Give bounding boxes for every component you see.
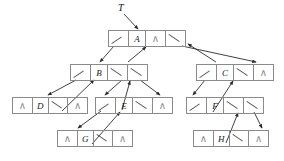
edge-A-to-B (100, 46, 114, 62)
node-b-cell-3-pointer (128, 65, 147, 80)
node-b-cell-2-pointer (108, 65, 128, 80)
node-e-cell-2-pointer (133, 98, 153, 113)
tree-node-c: C∧ (196, 64, 274, 81)
node-e-cell-0-pointer (96, 98, 116, 113)
node-h-cell-1-data: H (214, 131, 230, 146)
edge-B-to-D (48, 80, 76, 95)
tree-diagram-canvas: T A∧BC∧∧D∧E∧F∧G∧∧H∧ (0, 0, 284, 161)
node-a-cell-2-null-pointer: ∧ (146, 31, 166, 46)
node-c-cell-1-data: C (217, 65, 234, 80)
node-d-cell-0-null-pointer: ∧ (13, 98, 33, 113)
edge-B-to-A (128, 47, 146, 62)
node-b-cell-0-pointer (71, 65, 91, 80)
node-g-cell-0-null-pointer: ∧ (58, 131, 78, 146)
node-h-cell-2-pointer (230, 131, 250, 146)
node-g-cell-1-data: G (78, 131, 94, 146)
edge-A-to-C (182, 46, 256, 62)
node-d-cell-2-pointer (49, 98, 69, 113)
node-h-cell-3-null-pointer: ∧ (249, 131, 268, 146)
node-g-cell-3-null-pointer: ∧ (113, 131, 132, 146)
node-a-cell-3-pointer (166, 31, 185, 46)
tree-node-d: ∧D∧ (12, 97, 88, 114)
edge-C-to-F (193, 80, 205, 95)
tree-node-h: ∧H∧ (193, 130, 269, 147)
root-pointer-label: T (118, 2, 124, 13)
node-d-cell-3-null-pointer: ∧ (68, 98, 87, 113)
node-g-cell-2-pointer (94, 131, 114, 146)
node-f-cell-1-data: F (207, 98, 224, 113)
tree-node-b: B (70, 64, 148, 81)
node-h-cell-0-null-pointer: ∧ (194, 131, 214, 146)
node-b-cell-1-data: B (91, 65, 108, 80)
edge-B-to-rt (140, 80, 160, 95)
node-c-cell-0-pointer (197, 65, 217, 80)
node-f-cell-0-pointer (187, 98, 207, 113)
tree-node-a: A∧ (108, 30, 186, 47)
edge-T-to-A (124, 14, 138, 29)
node-e-cell-1-data: E (116, 98, 133, 113)
tree-node-f: F (186, 97, 264, 114)
node-e-cell-3-null-pointer: ∧ (153, 98, 172, 113)
node-f-cell-2-pointer (224, 98, 244, 113)
node-d-cell-1-data: D (33, 98, 49, 113)
tree-node-e: E∧ (95, 97, 173, 114)
edge-F-to-H (254, 112, 262, 128)
node-f-cell-3-pointer (244, 98, 263, 113)
node-a-cell-1-data: A (129, 31, 146, 46)
edge-C-to-A (188, 44, 216, 62)
tree-node-g: ∧G∧ (57, 130, 133, 147)
node-c-cell-2-pointer (234, 65, 254, 80)
node-c-cell-3-null-pointer: ∧ (254, 65, 273, 80)
node-a-cell-0-pointer (109, 31, 129, 46)
